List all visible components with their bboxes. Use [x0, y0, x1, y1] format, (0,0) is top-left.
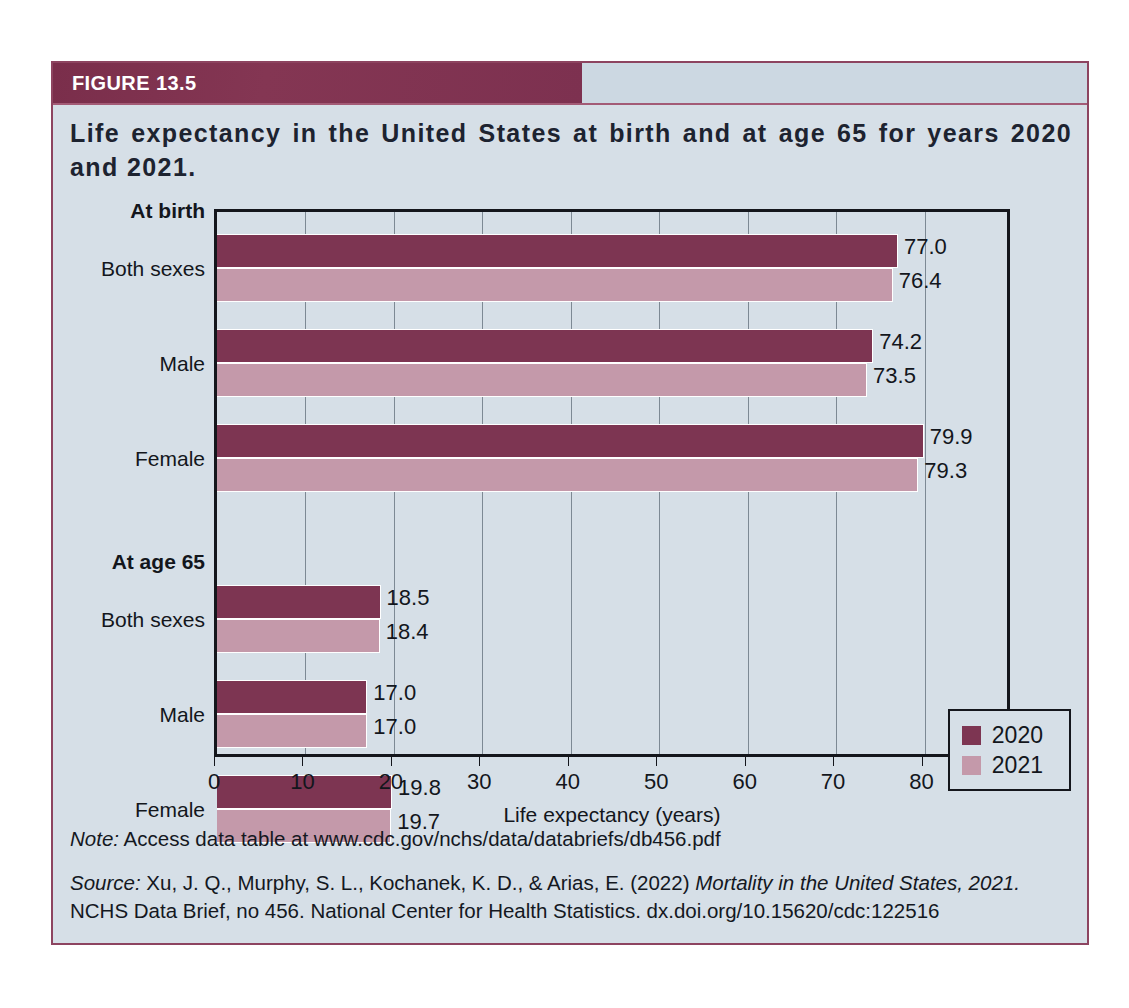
x-axis-tick [833, 757, 834, 766]
source-line: Source: Xu, J. Q., Murphy, S. L., Kochan… [70, 869, 1075, 925]
bar-2020 [217, 424, 924, 458]
bar-2020 [217, 329, 873, 363]
figure-number-label: FIGURE 13.5 [72, 72, 196, 95]
bar-value-2021: 73.5 [873, 363, 916, 389]
x-axis-tick-label: 70 [821, 769, 845, 795]
y-axis-category-label: Female [55, 447, 205, 471]
x-axis-tick [391, 757, 392, 766]
bar-2021 [217, 268, 893, 302]
bar-2021 [217, 458, 918, 492]
y-axis-category-label: Both sexes [55, 257, 205, 281]
x-axis-tick-label: 60 [732, 769, 756, 795]
bar-2021 [217, 363, 867, 397]
y-axis-category-label: Male [55, 703, 205, 727]
bar-value-2020: 77.0 [904, 234, 947, 260]
bar-2021 [217, 714, 367, 748]
y-axis-labels: At birthBoth sexesMaleFemaleAt age 65Bot… [53, 209, 205, 757]
x-axis-tick [479, 757, 480, 766]
y-axis-group-label: At age 65 [55, 550, 205, 574]
x-axis-tick-label: 50 [644, 769, 668, 795]
y-axis-category-label: Both sexes [55, 608, 205, 632]
legend-label-2020: 2020 [992, 722, 1043, 749]
bar-value-2021: 17.0 [373, 714, 416, 740]
legend-swatch-2020 [962, 726, 981, 745]
source-text-2: NCHS Data Brief, no 456. National Center… [70, 899, 939, 922]
bar-value-2021: 79.3 [924, 458, 967, 484]
x-axis: 0102030405060708090 [214, 757, 1010, 797]
x-axis-title: Life expectancy (years) [214, 803, 1010, 827]
x-axis-tick [302, 757, 303, 766]
figure-notes: Note: Access data table at www.cdc.gov/n… [70, 825, 1075, 925]
figure-header-bar: FIGURE 13.5 [53, 63, 1087, 105]
source-text-1: Xu, J. Q., Murphy, S. L., Kochanek, K. D… [141, 871, 696, 894]
chart-area: At birthBoth sexesMaleFemaleAt age 65Bot… [53, 203, 1087, 813]
note-prefix: Note: [70, 827, 119, 850]
x-axis-tick-label: 20 [379, 769, 403, 795]
source-publication-title: Mortality in the United States, 2021. [695, 871, 1020, 894]
legend-label-2021: 2021 [992, 752, 1043, 779]
bar-2021 [217, 619, 380, 653]
legend-item: 2021 [962, 750, 1043, 780]
bar-value-2020: 18.5 [387, 585, 430, 611]
note-line: Note: Access data table at www.cdc.gov/n… [70, 825, 1075, 852]
x-axis-tick [745, 757, 746, 766]
bar-value-2020: 74.2 [879, 329, 922, 355]
x-axis-tick [922, 757, 923, 766]
y-axis-group-label: At birth [55, 199, 205, 223]
bar-value-2021: 76.4 [899, 268, 942, 294]
legend-item: 2020 [962, 720, 1043, 750]
bar-2020 [217, 234, 898, 268]
x-axis-tick-label: 80 [909, 769, 933, 795]
bar-value-2020: 17.0 [373, 680, 416, 706]
chart-legend: 20202021 [948, 709, 1071, 791]
figure-title: Life expectancy in the United States at … [70, 116, 1072, 184]
bar-value-2021: 18.4 [386, 619, 429, 645]
legend-swatch-2021 [962, 756, 981, 775]
x-axis-tick [214, 757, 215, 766]
x-axis-tick-label: 30 [467, 769, 491, 795]
plot-frame [214, 209, 1010, 757]
bar-2020 [217, 585, 381, 619]
figure-panel: FIGURE 13.5 Life expectancy in the Unite… [51, 61, 1089, 945]
x-axis-tick-label: 0 [208, 769, 220, 795]
x-axis-tick-label: 40 [556, 769, 580, 795]
bar-value-2020: 79.9 [930, 424, 973, 450]
note-text: Access data table at www.cdc.gov/nchs/da… [119, 827, 721, 850]
x-axis-tick-label: 10 [290, 769, 314, 795]
y-axis-category-label: Female [55, 798, 205, 822]
bars-layer [217, 212, 1007, 754]
y-axis-category-label: Male [55, 352, 205, 376]
x-axis-tick [656, 757, 657, 766]
source-prefix: Source: [70, 871, 141, 894]
bar-2020 [217, 680, 367, 714]
x-axis-tick [568, 757, 569, 766]
